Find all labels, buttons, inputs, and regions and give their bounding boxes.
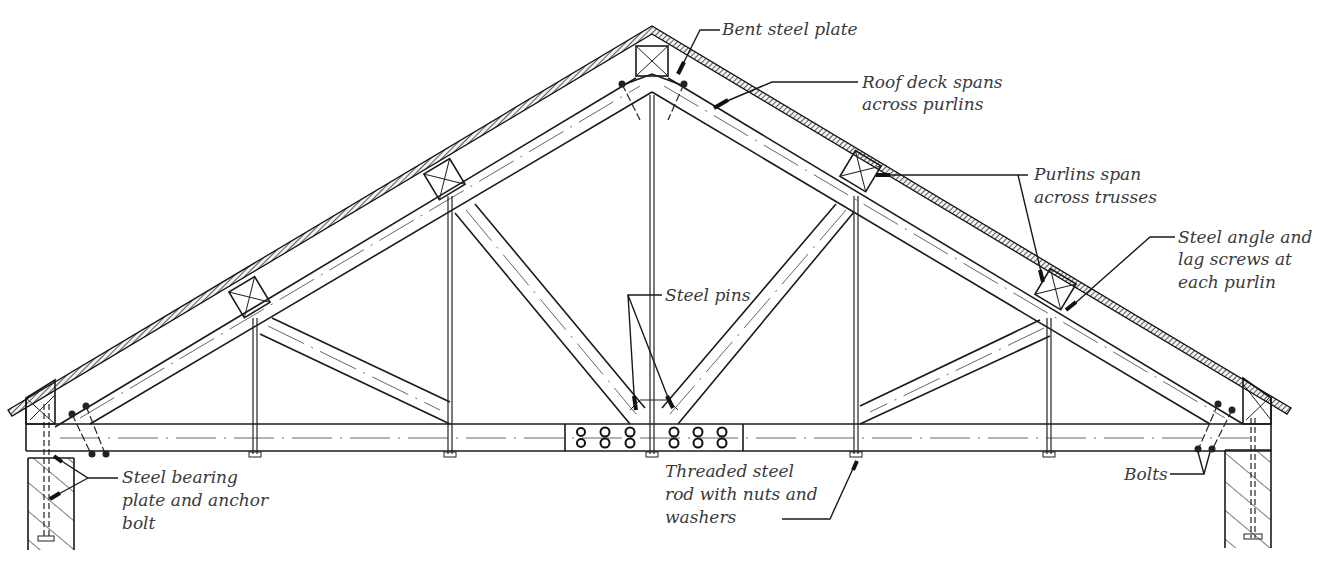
- bearing-wall-right: [1225, 418, 1271, 548]
- label-bearing-plate-line2: plate and anchor: [122, 490, 269, 510]
- label-purlins-line1: Purlins span: [1033, 164, 1141, 184]
- label-purlins-line2: across trusses: [1034, 187, 1157, 207]
- label-steel-angle-line2: lag screws at: [1178, 249, 1292, 269]
- purlin-ridge: [636, 46, 668, 76]
- label-roof-deck-line2: across purlins: [862, 94, 984, 114]
- truss-diagram: Bent steel plate Roof deck spans across …: [0, 0, 1329, 563]
- top-chord-left: [55, 78, 652, 427]
- label-threaded-rod-line3: washers: [665, 507, 737, 527]
- label-bent-steel-plate: Bent steel plate: [721, 19, 858, 39]
- label-threaded-rod-line1: Threaded steel: [665, 461, 794, 481]
- label-steel-angle-line1: Steel angle and: [1178, 227, 1312, 247]
- label-steel-pins: Steel pins: [665, 285, 751, 305]
- label-roof-deck-line1: Roof deck spans: [861, 72, 1003, 92]
- bearing-wall-left: [28, 404, 74, 550]
- label-bearing-plate-line3: bolt: [122, 513, 156, 533]
- label-bearing-plate-line1: Steel bearing: [122, 467, 238, 487]
- vertical-rods: [249, 95, 1055, 457]
- label-bolts: Bolts: [1123, 464, 1168, 484]
- label-threaded-rod-line2: rod with nuts and: [665, 484, 818, 504]
- label-steel-angle-line3: each purlin: [1178, 272, 1276, 292]
- top-chord-right: [652, 78, 1243, 424]
- bottom-chord: [26, 398, 1271, 451]
